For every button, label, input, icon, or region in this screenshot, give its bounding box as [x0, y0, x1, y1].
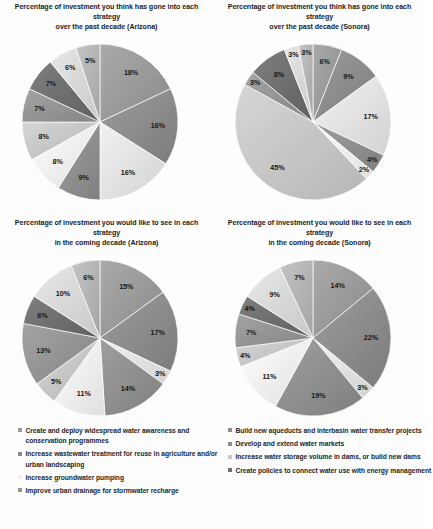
- pie-slice-label: 3%: [357, 383, 368, 392]
- legend-swatch-icon: [18, 475, 22, 479]
- pie-chart-az-past: 18%16%16%9%8%8%7%7%6%5%: [0, 32, 213, 210]
- pie-chart-so-future: 14%22%3%19%11%4%7%4%9%7%: [213, 248, 426, 426]
- pie-slice-label: 8%: [39, 132, 50, 141]
- pie-slice-label: 9%: [269, 290, 280, 299]
- legend-swatch-icon: [228, 468, 232, 472]
- pie-slice-label: 6%: [83, 273, 94, 282]
- pie-slice-label: 4%: [367, 155, 378, 164]
- legend-item-label: Create policies to connect water use wit…: [236, 466, 433, 476]
- pie-slice-label: 7%: [34, 104, 45, 113]
- pie-slice-label: 4%: [244, 304, 255, 313]
- legend-item[interactable]: Increase groundwater pumping: [18, 473, 223, 483]
- pie-slice-label: 6%: [65, 63, 76, 72]
- legend-item-label: Increase water storage volume in dams, o…: [236, 452, 433, 462]
- chart-title-line1: Percentage of investment you think has g…: [8, 2, 205, 22]
- chart-panel-so-past: Percentage of investment you think has g…: [213, 2, 426, 210]
- legend-swatch-icon: [18, 488, 22, 492]
- pie-slice-label: 3%: [288, 50, 299, 59]
- chart-panel-az-past: Percentage of investment you think has g…: [0, 2, 213, 210]
- chart-panel-so-future: Percentage of investment you would like …: [213, 218, 426, 426]
- pie-slice-label: 2%: [359, 166, 370, 175]
- pie-slice-label: 7%: [294, 273, 305, 282]
- pie-slice-label: 3%: [155, 369, 166, 378]
- pie-slice-label: 9%: [343, 72, 354, 81]
- pie-slice-label: 3%: [301, 48, 312, 57]
- legend-swatch-icon: [18, 428, 22, 432]
- pie-slice-label: 6%: [37, 311, 48, 320]
- legend-item[interactable]: Develop and extend water markets: [228, 439, 433, 449]
- pie-slice-label: 3%: [250, 78, 261, 87]
- chart-panel-az-future: Percentage of investment you would like …: [0, 218, 213, 426]
- pie-slice-label: 11%: [262, 372, 277, 381]
- legend-item-label: Improve urban drainage for stormwater re…: [26, 486, 224, 496]
- chart-title-line2: over the past decade (Arizona): [8, 22, 205, 32]
- pie-slice-label: 22%: [364, 334, 379, 343]
- chart-title-az-future: Percentage of investment you would like …: [0, 218, 213, 248]
- legend-item-label: Increase groundwater pumping: [26, 473, 224, 483]
- legend-item[interactable]: Increase wastewater treatment for reuse …: [18, 449, 223, 469]
- pie-slice-label: 18%: [124, 69, 139, 78]
- legend-left: Create and deploy widespread water aware…: [18, 426, 223, 499]
- legend-item-label: Build new aqueducts and interbasin water…: [236, 426, 433, 436]
- chart-title-line1: Percentage of investment you would like …: [221, 218, 418, 238]
- pie-slice-label: 13%: [36, 346, 51, 355]
- pie-chart-az-future: 15%17%3%14%11%5%13%6%10%6%: [0, 248, 213, 426]
- pie-slice-label: 17%: [364, 112, 379, 121]
- legend-item[interactable]: Improve urban drainage for stormwater re…: [18, 486, 223, 496]
- pie-slice-label: 17%: [151, 328, 166, 337]
- pie-slice-label: 6%: [319, 57, 330, 66]
- pie-slice-label: 10%: [56, 289, 71, 298]
- legend-item[interactable]: Create and deploy widespread water aware…: [18, 426, 223, 446]
- legend-swatch-icon: [228, 428, 232, 432]
- chart-title-so-past: Percentage of investment you think has g…: [213, 2, 426, 32]
- legend-swatch-icon: [228, 455, 232, 459]
- legend-item[interactable]: Build new aqueducts and interbasin water…: [228, 426, 433, 436]
- legend-item[interactable]: Create policies to connect water use wit…: [228, 466, 433, 476]
- pie-slice-label: 8%: [53, 157, 64, 166]
- legend-swatch-icon: [18, 452, 22, 456]
- legend-item-label: Create and deploy widespread water aware…: [26, 426, 224, 446]
- chart-title-line2: in the coming decade (Sonora): [221, 238, 418, 248]
- pie-slice-label: 7%: [46, 80, 57, 89]
- legend-right: Build new aqueducts and interbasin water…: [228, 426, 433, 479]
- pie-slice-label: 45%: [270, 163, 285, 172]
- pie-slice-label: 8%: [274, 71, 285, 80]
- legend-item-label: Increase wastewater treatment for reuse …: [26, 449, 224, 469]
- legend-swatch-icon: [228, 442, 232, 446]
- pie-slice-label: 9%: [79, 173, 90, 182]
- pie-slice-label: 14%: [331, 281, 346, 290]
- pie-slice-label: 5%: [85, 56, 96, 65]
- legend-item[interactable]: Increase water storage volume in dams, o…: [228, 452, 433, 462]
- legend-item-label: Develop and extend water markets: [236, 439, 433, 449]
- pie-slice-label: 16%: [151, 121, 166, 130]
- chart-title-line1: Percentage of investment you would like …: [8, 218, 205, 238]
- pie-slice-label: 14%: [121, 384, 136, 393]
- pie-slice-label: 11%: [77, 389, 92, 398]
- pie-slice-label: 16%: [121, 168, 136, 177]
- pie-slice-label: 5%: [51, 377, 62, 386]
- pie-slice-label: 4%: [240, 351, 251, 360]
- chart-title-az-past: Percentage of investment you think has g…: [0, 2, 213, 32]
- chart-title-line2: over the past decade (Sonora): [221, 22, 418, 32]
- chart-title-line2: in the coming decade (Arizona): [8, 238, 205, 248]
- chart-title-line1: Percentage of investment you think has g…: [221, 2, 418, 22]
- pie-slice-label: 7%: [246, 328, 257, 337]
- pie-slice-label: 15%: [119, 282, 134, 291]
- pie-slice-label: 19%: [311, 391, 326, 400]
- chart-title-so-future: Percentage of investment you would like …: [213, 218, 426, 248]
- pie-chart-so-past: 6%9%17%4%2%45%3%8%3%3%: [213, 32, 426, 210]
